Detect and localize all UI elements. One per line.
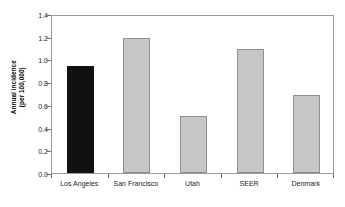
plot-area — [52, 16, 333, 173]
y-axis-tick-label: 0.6 — [24, 102, 48, 109]
y-axis-tick-labels: 0.00.20.40.60.81.01.21.4 — [24, 0, 48, 207]
x-axis-tick-mark — [108, 174, 109, 178]
plot-frame — [51, 15, 334, 174]
bar-san-francisco — [123, 38, 150, 173]
y-axis-tick-mark — [46, 151, 51, 152]
bar-denmark — [293, 95, 320, 173]
bar-los-angeles — [67, 66, 94, 173]
y-axis-tick-mark — [46, 15, 51, 16]
y-axis-tick-label: 1.0 — [24, 57, 48, 64]
y-axis-tick-mark — [46, 129, 51, 130]
x-axis-tick-mark — [51, 174, 52, 178]
x-axis-tick-mark — [333, 174, 334, 178]
y-axis-tick-label: 0.0 — [24, 171, 48, 178]
x-axis-category-label: Denmark — [291, 180, 319, 187]
y-axis-tick-label: 1.4 — [24, 12, 48, 19]
x-axis-tick-mark — [277, 174, 278, 178]
y-axis-tick-mark — [46, 106, 51, 107]
y-axis-tick-mark — [46, 83, 51, 84]
x-axis-category-label: Los Angeles — [60, 180, 98, 187]
y-axis-tick-mark — [46, 60, 51, 61]
x-axis-tick-mark — [164, 174, 165, 178]
y-axis-tick-label: 0.4 — [24, 125, 48, 132]
y-axis-tick-label: 0.8 — [24, 80, 48, 87]
x-axis-category-label: San Francisco — [114, 180, 159, 187]
x-axis-category-label: Utah — [185, 180, 200, 187]
bar-chart: Annual incidence (per 100,000) 0.00.20.4… — [0, 0, 345, 207]
y-axis-tick-label: 0.2 — [24, 148, 48, 155]
y-axis-tick-label: 1.2 — [24, 34, 48, 41]
x-axis-category-label: SEER — [240, 180, 259, 187]
bar-seer — [237, 49, 264, 173]
y-axis-tick-mark — [46, 38, 51, 39]
y-axis-title-line-1: Annual incidence — [10, 61, 18, 115]
bar-utah — [180, 116, 207, 173]
x-axis-tick-mark — [221, 174, 222, 178]
